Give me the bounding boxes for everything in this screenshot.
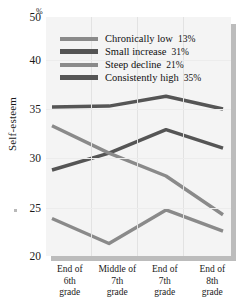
plot-bottom-shadow (51, 256, 236, 261)
legend-label: Small increase31% (105, 46, 189, 59)
plot-right-shadow (231, 24, 236, 256)
x-axis-labels: End of 6th grade Middle of 7th grade End… (46, 264, 236, 304)
y-tick-40: 40 (17, 55, 41, 67)
x-label-line: 7th (141, 276, 189, 288)
legend-label-text: Steep decline (105, 59, 161, 70)
x-label-line: Middle of (94, 264, 142, 276)
legend-item-steep-decline: Steep decline21% (60, 59, 228, 71)
legend-pct: 31% (172, 47, 189, 57)
legend-label: Consistently high35% (105, 72, 201, 85)
legend-item-chronically-low: Chronically low13% (60, 33, 228, 45)
x-label-line: 7th (94, 276, 142, 288)
y-tick-50: 50 (17, 12, 41, 24)
legend: Chronically low13% Small increase31% Ste… (60, 33, 228, 85)
legend-swatch-icon (60, 49, 98, 54)
legend-swatch-icon (60, 63, 98, 67)
legend-pct: 21% (166, 60, 183, 70)
x-label-end-of-7th-grade: End of 7th grade (141, 264, 189, 304)
x-label-line: End of (141, 264, 189, 276)
x-label-end-of-8th-grade: End of 8th grade (189, 264, 237, 304)
horizontal-gridline (46, 158, 231, 159)
x-label-line: grade (46, 287, 94, 299)
legend-item-small-increase: Small increase31% (60, 46, 228, 58)
y-tick-30: 30 (17, 153, 41, 165)
legend-label-text: Chronically low (105, 33, 173, 44)
legend-pct: 35% (184, 73, 201, 83)
legend-label: Chronically low13% (105, 33, 195, 46)
x-label-middle-of-7th-grade: Middle of 7th grade (94, 264, 142, 304)
y-tick-35: 35 (17, 104, 41, 116)
legend-item-consistently-high: Consistently high35% (60, 72, 228, 84)
x-label-line: grade (141, 287, 189, 299)
y-tick-20: 20 (17, 251, 41, 263)
stray-tick-mark (14, 209, 17, 212)
x-label-end-of-6th-grade: End of 6th grade (46, 264, 94, 304)
legend-label-text: Small increase (105, 46, 167, 57)
legend-swatch-icon (60, 75, 98, 80)
x-label-line: End of (189, 264, 237, 276)
legend-swatch-icon (60, 37, 98, 41)
self-esteem-line-chart: % Self-esteem 50 40 35 30 25 20 Chronica… (0, 0, 249, 304)
y-tick-25: 25 (17, 203, 41, 215)
legend-pct: 13% (178, 34, 195, 44)
horizontal-gridline (46, 109, 231, 110)
legend-label-text: Consistently high (105, 72, 179, 83)
x-label-line: 6th (46, 276, 94, 288)
x-label-line: 8th (189, 276, 237, 288)
horizontal-gridline (46, 208, 231, 209)
x-label-line: grade (94, 287, 142, 299)
legend-label: Steep decline21% (105, 59, 184, 72)
x-label-line: End of (46, 264, 94, 276)
x-label-line: grade (189, 287, 237, 299)
